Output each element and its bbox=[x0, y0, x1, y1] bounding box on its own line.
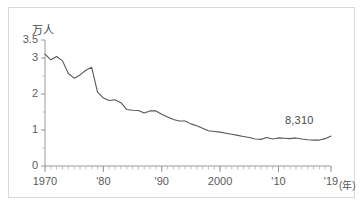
x-axis-minor-ticks bbox=[45, 166, 331, 170]
chart-figure: 万人 3.53210 1970'80'902000'10'19 (年) 8,31… bbox=[0, 0, 363, 206]
x-tick-label: '80 bbox=[77, 175, 129, 187]
x-axis-major-ticks bbox=[45, 166, 331, 172]
x-tick-label: 2000 bbox=[194, 175, 246, 187]
x-tick-label: '90 bbox=[136, 175, 188, 187]
y-tick-label: 2 bbox=[10, 87, 38, 99]
y-axis-major-ticks bbox=[41, 40, 45, 166]
data-series-line bbox=[45, 54, 331, 140]
y-tick-label: 3.5 bbox=[10, 33, 38, 45]
x-axis-unit-label: (年) bbox=[339, 177, 356, 192]
y-axis-group bbox=[41, 40, 45, 166]
x-tick-label: '10 bbox=[252, 175, 304, 187]
final-value-label: 8,310 bbox=[285, 114, 314, 126]
y-tick-label: 0 bbox=[10, 159, 38, 171]
x-tick-label: 1970 bbox=[19, 175, 71, 187]
y-tick-label: 3 bbox=[10, 51, 38, 63]
y-tick-label: 1 bbox=[10, 123, 38, 135]
x-axis-group bbox=[45, 166, 331, 172]
